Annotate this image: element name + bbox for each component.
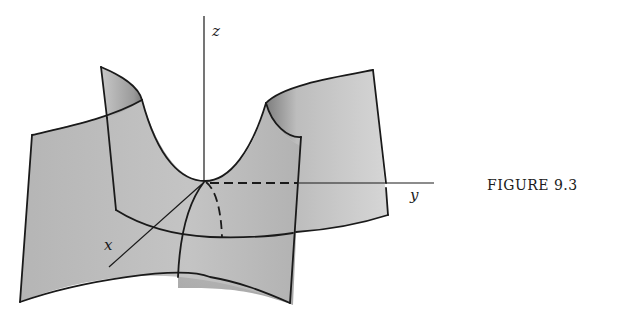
x-axis-label: x — [104, 236, 112, 254]
figure-caption: FIGURE 9.3 — [487, 177, 578, 193]
saddle-surface-figure — [0, 0, 635, 322]
y-axis-label: y — [410, 186, 418, 204]
z-axis-label: z — [212, 22, 220, 40]
